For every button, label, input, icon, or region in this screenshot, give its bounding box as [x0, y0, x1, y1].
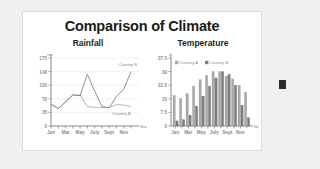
rainfall-x-tick-label: Sept: [104, 130, 114, 135]
temperature-bar-country-a: [186, 94, 188, 126]
temperature-svg: 07.51522.53037.5CMonthJanMarMayJulySeptN…: [147, 50, 259, 146]
temperature-bar-country-b: [215, 78, 217, 126]
rainfall-x-axis-label: Month: [140, 125, 147, 129]
rainfall-y-tick-label: 70: [42, 97, 48, 102]
temperature-plot-area[interactable]: 07.51522.53037.5CMonthJanMarMayJulySeptN…: [147, 50, 259, 146]
rainfall-chart-title: Rainfall: [29, 38, 147, 48]
temperature-bar-country-a: [238, 85, 240, 126]
temperature-bar-country-a: [193, 86, 195, 126]
temperature-bar-country-b: [241, 105, 243, 126]
page-title: Comparison of Climate: [23, 18, 261, 34]
temperature-bar-country-a: [206, 75, 208, 126]
rainfall-label-country-b: Country B: [118, 62, 137, 67]
temperature-x-axis-label: Month: [254, 125, 259, 129]
rainfall-x-tick-label: Nov: [119, 130, 128, 135]
rainfall-line-country-b: [51, 72, 131, 109]
temperature-bar-country-b: [247, 118, 249, 126]
temperature-bar-country-a: [245, 92, 247, 126]
temperature-bar-country-b: [195, 106, 197, 126]
temperature-bar-country-a: [232, 79, 234, 126]
rainfall-y-axis-unit: mm: [47, 53, 53, 57]
temperature-bar-country-a: [180, 98, 182, 126]
temperature-x-tick-label: Sept: [222, 130, 232, 135]
temperature-chart-title: Temperature: [147, 38, 259, 48]
temperature-y-tick-label: 37.5: [158, 56, 167, 61]
resize-handle[interactable]: [279, 80, 286, 89]
rainfall-x-tick-label: Jan: [47, 130, 55, 135]
rainfall-plot-area[interactable]: 03570105140175mmMonthJanMarMayJulySeptNo…: [29, 50, 147, 146]
rainfall-line-country-a: [51, 95, 131, 109]
temperature-legend-label-a: Country A: [180, 60, 199, 65]
temperature-y-tick-label: 30: [162, 70, 168, 75]
temperature-bar-country-a: [173, 96, 175, 126]
temperature-x-tick-label: May: [197, 130, 206, 135]
temperature-bar-country-b: [221, 72, 223, 126]
rainfall-x-tick-label: July: [90, 130, 100, 135]
temperature-legend-label-b: Country B: [210, 60, 229, 65]
temperature-bar-country-a: [219, 72, 221, 126]
temperature-legend-swatch-b: [205, 61, 208, 64]
slide-frame[interactable]: Comparison of Climate Rainfall 035701051…: [22, 11, 262, 151]
temperature-bar-country-b: [208, 86, 210, 126]
temperature-bar-country-b: [176, 121, 178, 126]
rainfall-y-tick-label: 0: [44, 124, 47, 129]
rainfall-x-tick-label: May: [76, 130, 85, 135]
temperature-y-tick-label: 7.5: [161, 110, 168, 115]
rainfall-y-tick-label: 140: [39, 70, 47, 75]
temperature-y-tick-label: 0: [164, 124, 167, 129]
temperature-legend-swatch-a: [175, 61, 178, 64]
temperature-bar-country-a: [212, 72, 214, 126]
rainfall-y-tick-label: 105: [39, 83, 47, 88]
temperature-bar-country-b: [228, 74, 230, 126]
rainfall-svg: 03570105140175mmMonthJanMarMayJulySeptNo…: [29, 50, 147, 146]
temperature-y-tick-label: 15: [162, 97, 168, 102]
temperature-bar-country-b: [234, 85, 236, 126]
temperature-bar-country-a: [225, 76, 227, 126]
rainfall-x-tick-label: Mar: [61, 130, 69, 135]
temperature-bar-country-b: [182, 120, 184, 126]
temperature-bar-country-b: [202, 96, 204, 126]
temperature-bar-country-a: [199, 80, 201, 126]
temperature-x-tick-label: Mar: [184, 130, 192, 135]
temperature-x-tick-label: Jan: [171, 130, 179, 135]
rainfall-label-country-a: Country A: [112, 111, 131, 116]
rainfall-chart-panel[interactable]: Rainfall 03570105140175mmMonthJanMarMayJ…: [29, 38, 147, 148]
rainfall-y-tick-label: 175: [39, 56, 47, 61]
temperature-x-tick-label: July: [210, 130, 220, 135]
temperature-x-tick-label: Nov: [236, 130, 245, 135]
temperature-bar-country-b: [189, 115, 191, 126]
rainfall-y-tick-label: 35: [42, 110, 48, 115]
temperature-y-tick-label: 22.5: [158, 83, 167, 88]
temperature-chart-panel[interactable]: Temperature 07.51522.53037.5CMonthJanMar…: [147, 38, 259, 148]
